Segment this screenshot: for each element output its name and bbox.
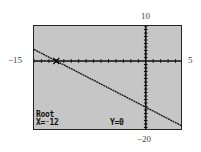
ymin-label: −20: [137, 134, 151, 144]
y-readout: Y=0: [110, 119, 124, 127]
xmin-label: −15: [8, 55, 22, 65]
ymax-label: 10: [141, 11, 150, 21]
graph-plot: [34, 26, 182, 130]
x-readout: X=⁻12: [36, 119, 59, 127]
xmax-label: 5: [188, 55, 193, 65]
calculator-screen: Root X=⁻12 Y=0: [33, 25, 182, 130]
